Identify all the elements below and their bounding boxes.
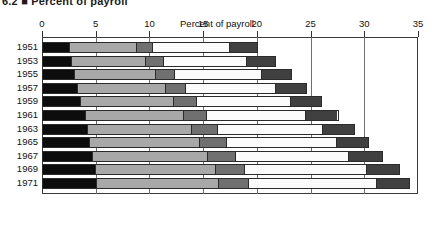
bar-segment[interactable] xyxy=(191,125,217,134)
x-tick-label: 10 xyxy=(144,18,155,29)
bar-segment[interactable] xyxy=(43,43,69,52)
bar-segment[interactable] xyxy=(275,84,306,93)
bar-segment[interactable] xyxy=(229,43,257,52)
bar-segment[interactable] xyxy=(85,111,183,120)
x-tick xyxy=(42,31,43,37)
x-tick-label: 15 xyxy=(198,18,209,29)
plot-area: 05101520253035 1951195319551957195919611… xyxy=(42,37,418,194)
y-tick-label: 1959 xyxy=(17,95,38,106)
x-tick-label: 0 xyxy=(39,18,44,29)
y-tick-label: 1957 xyxy=(17,82,38,93)
x-tick xyxy=(418,31,419,37)
stacked-bar[interactable] xyxy=(42,69,292,80)
stacked-bar[interactable] xyxy=(42,151,383,162)
bar-row: 1959 xyxy=(42,96,418,107)
figure-title-clipped: 6.2 ■ Percent of payroll xyxy=(0,0,434,9)
bar-segment[interactable] xyxy=(136,43,152,52)
bar-segment[interactable] xyxy=(87,125,192,134)
stacked-bar[interactable] xyxy=(42,164,400,175)
bar-segment[interactable] xyxy=(196,97,291,106)
bar-segment[interactable] xyxy=(248,179,376,188)
bar-row: 1957 xyxy=(42,83,418,94)
bar-segment[interactable] xyxy=(322,125,354,134)
bar-row: 1971 xyxy=(42,178,418,189)
bar-segment[interactable] xyxy=(173,97,195,106)
bar-segment[interactable] xyxy=(80,97,173,106)
bar-row: 1963 xyxy=(42,124,418,135)
bar-segment[interactable] xyxy=(376,179,409,188)
stacked-bar[interactable] xyxy=(42,83,307,94)
x-tick-label: 5 xyxy=(93,18,98,29)
y-tick-label: 1951 xyxy=(17,41,38,52)
bar-segment[interactable] xyxy=(43,57,71,66)
y-tick-label: 1953 xyxy=(17,55,38,66)
bar-segment[interactable] xyxy=(244,165,366,174)
bar-segment[interactable] xyxy=(95,165,215,174)
bar-segment[interactable] xyxy=(69,43,136,52)
bar-segment[interactable] xyxy=(366,165,399,174)
bar-segment[interactable] xyxy=(43,179,96,188)
bar-segment[interactable] xyxy=(43,70,74,79)
bar-segment[interactable] xyxy=(152,43,230,52)
bar-segment[interactable] xyxy=(290,97,321,106)
y-tick-label: 1971 xyxy=(17,177,38,188)
bar-segment[interactable] xyxy=(43,152,92,161)
bar-segment[interactable] xyxy=(206,111,305,120)
bar-row: 1961 xyxy=(42,110,418,121)
bar-segment[interactable] xyxy=(226,138,336,147)
bar-segment[interactable] xyxy=(246,57,275,66)
bar-segment[interactable] xyxy=(155,70,174,79)
bar-segment[interactable] xyxy=(77,84,164,93)
bar-row: 1955 xyxy=(42,69,418,80)
stacked-bar[interactable] xyxy=(42,178,410,189)
bar-segment[interactable] xyxy=(145,57,163,66)
y-tick-label: 1967 xyxy=(17,150,38,161)
bar-segment[interactable] xyxy=(43,165,95,174)
bar-segment[interactable] xyxy=(43,125,87,134)
bar-segment[interactable] xyxy=(185,84,276,93)
y-tick-label: 1961 xyxy=(17,109,38,120)
chart-figure: 6.2 ■ Percent of payroll Percent of payr… xyxy=(0,0,434,230)
bar-row: 1969 xyxy=(42,164,418,175)
stacked-bar[interactable] xyxy=(42,110,339,121)
bar-segment[interactable] xyxy=(217,125,322,134)
bar-segment[interactable] xyxy=(183,111,206,120)
bar-segment[interactable] xyxy=(43,97,80,106)
bar-segment[interactable] xyxy=(199,138,226,147)
x-tick-label: 25 xyxy=(305,18,316,29)
figure-title-text: 6.2 ■ Percent of payroll xyxy=(2,0,128,7)
bar-segment[interactable] xyxy=(207,152,235,161)
bar-row: 1965 xyxy=(42,137,418,148)
stacked-bar[interactable] xyxy=(42,42,258,53)
x-tick-label: 30 xyxy=(359,18,370,29)
stacked-bar[interactable] xyxy=(42,137,369,148)
bar-segment[interactable] xyxy=(235,152,348,161)
bar-segment[interactable] xyxy=(43,84,77,93)
y-tick-label: 1963 xyxy=(17,123,38,134)
stacked-bar[interactable] xyxy=(42,56,276,67)
bar-segment[interactable] xyxy=(348,152,381,161)
bar-segment[interactable] xyxy=(43,111,85,120)
bar-segment[interactable] xyxy=(96,179,218,188)
bar-segment[interactable] xyxy=(174,70,261,79)
bar-segment[interactable] xyxy=(165,84,185,93)
x-tick-label: 35 xyxy=(413,18,424,29)
bar-segment[interactable] xyxy=(305,111,337,120)
bar-segment[interactable] xyxy=(163,57,246,66)
y-tick-label: 1965 xyxy=(17,136,38,147)
bar-segment[interactable] xyxy=(336,138,368,147)
bar-segment[interactable] xyxy=(71,57,146,66)
bar-segment[interactable] xyxy=(261,70,291,79)
bar-segment[interactable] xyxy=(92,152,207,161)
bar-row: 1967 xyxy=(42,151,418,162)
bar-segment[interactable] xyxy=(218,179,248,188)
y-tick-label: 1969 xyxy=(17,163,38,174)
stacked-bar[interactable] xyxy=(42,96,322,107)
bar-row: 1953 xyxy=(42,56,418,67)
stacked-bar[interactable] xyxy=(42,124,355,135)
bar-segment[interactable] xyxy=(74,70,155,79)
bar-segment[interactable] xyxy=(89,138,199,147)
bar-segment[interactable] xyxy=(43,138,89,147)
bar-segment[interactable] xyxy=(215,165,244,174)
y-tick-label: 1955 xyxy=(17,68,38,79)
